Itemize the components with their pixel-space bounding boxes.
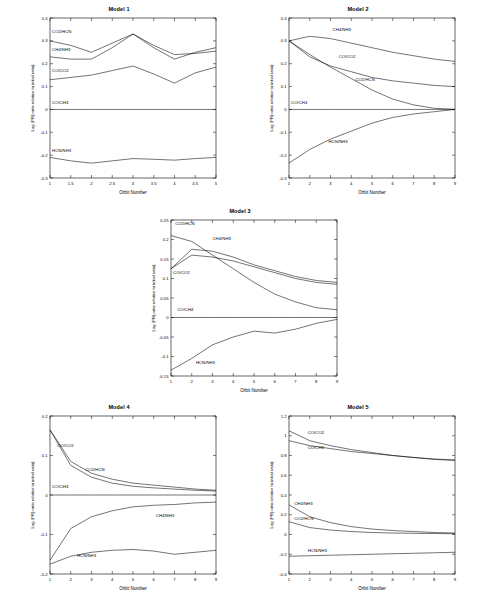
svg-text:5: 5 xyxy=(253,379,256,384)
svg-text:0.4: 0.4 xyxy=(281,493,287,498)
svg-text:0.1: 0.1 xyxy=(42,84,48,89)
svg-text:-0.1: -0.1 xyxy=(40,532,48,537)
svg-text:0.15: 0.15 xyxy=(160,257,169,262)
svg-text:1: 1 xyxy=(288,577,291,582)
series-ch4-nh3 xyxy=(50,502,216,560)
svg-text:6: 6 xyxy=(392,577,395,582)
svg-text:Orbit Number: Orbit Number xyxy=(119,190,147,195)
series-label-co-co2: CO/CO2 xyxy=(339,54,356,59)
series-ch4-nh3 xyxy=(171,249,337,282)
series-label-co-ch4: CO/CH4 xyxy=(308,445,325,450)
svg-text:9: 9 xyxy=(215,577,218,582)
series-co-ch4 xyxy=(289,441,455,460)
svg-text:6: 6 xyxy=(392,181,395,186)
svg-text:7: 7 xyxy=(294,379,297,384)
series-label-hcn-nh3: HCN/NH3 xyxy=(328,139,348,144)
panel-model-3: Model 3 123456789-0.15-0.1-0.0500.050.10… xyxy=(135,208,345,400)
series-label-ch4-nh3: CH4/NH3 xyxy=(156,513,175,518)
svg-text:-0.2: -0.2 xyxy=(279,153,287,158)
svg-text:1: 1 xyxy=(49,577,52,582)
svg-text:Orbit Number: Orbit Number xyxy=(358,586,386,591)
svg-text:0.4: 0.4 xyxy=(281,16,287,21)
svg-text:0.05: 0.05 xyxy=(160,296,169,301)
svg-text:-0.2: -0.2 xyxy=(279,552,287,557)
series-label-ch4-nh3: CH4/NH3 xyxy=(294,501,313,506)
plot-model-5: 123456789-0.4-0.200.20.40.60.811.2Orbit … xyxy=(253,404,463,600)
svg-text:Log (PR) ratio relative to ini: Log (PR) ratio relative to initial ratio… xyxy=(151,264,156,331)
series-label-ch4-nh3: CH4/NH3 xyxy=(52,47,71,52)
series-co2-hcn xyxy=(289,41,455,110)
svg-text:-0.3: -0.3 xyxy=(279,176,287,181)
svg-text:4: 4 xyxy=(111,577,114,582)
series-label-co-co2: CO/CO2 xyxy=(173,270,190,275)
series-hcn-nh3 xyxy=(289,109,455,163)
series-label-co-co2: CO/CO2 xyxy=(52,68,69,73)
svg-text:0: 0 xyxy=(45,493,48,498)
svg-text:4: 4 xyxy=(173,181,176,186)
svg-text:3.5: 3.5 xyxy=(151,181,157,186)
plot-model-3: 123456789-0.15-0.1-0.0500.050.10.150.20.… xyxy=(135,208,345,400)
svg-text:0.3: 0.3 xyxy=(281,38,287,43)
svg-text:9: 9 xyxy=(454,181,457,186)
panel-title-model-4: Model 4 xyxy=(14,404,224,410)
svg-text:0.25: 0.25 xyxy=(160,218,169,223)
svg-text:5: 5 xyxy=(215,181,218,186)
plot-model-4: 123456789-0.2-0.100.10.2Orbit NumberLog … xyxy=(14,404,224,600)
svg-text:7: 7 xyxy=(412,181,415,186)
svg-text:5: 5 xyxy=(371,181,374,186)
svg-text:2: 2 xyxy=(309,181,312,186)
panel-title-model-5: Model 5 xyxy=(253,404,463,410)
figure-canvas: Model 1 11.522.533.544.55-0.3-0.2-0.100.… xyxy=(0,0,485,604)
series-label-ch4-nh3: CH4/NH3 xyxy=(213,236,232,241)
series-co2-hcn xyxy=(171,236,337,310)
svg-text:-0.15: -0.15 xyxy=(159,374,169,379)
panel-title-model-1: Model 1 xyxy=(14,6,224,12)
svg-text:-0.2: -0.2 xyxy=(40,572,48,577)
svg-text:2.5: 2.5 xyxy=(109,181,115,186)
svg-text:-0.3: -0.3 xyxy=(40,176,48,181)
series-co-co2 xyxy=(50,430,216,490)
svg-text:0.4: 0.4 xyxy=(42,16,48,21)
series-label-hcn-nh3: HCN/NH3 xyxy=(52,148,72,153)
svg-text:0: 0 xyxy=(166,315,169,320)
svg-text:-0.1: -0.1 xyxy=(161,354,169,359)
series-co2-hcn xyxy=(289,522,455,534)
svg-text:1: 1 xyxy=(288,181,291,186)
svg-text:2: 2 xyxy=(191,379,194,384)
panel-model-4: Model 4 123456789-0.2-0.100.10.2Orbit Nu… xyxy=(14,404,224,600)
series-hcn-nh3 xyxy=(289,552,455,556)
svg-text:-0.1: -0.1 xyxy=(279,130,287,135)
svg-text:3: 3 xyxy=(132,181,135,186)
svg-text:3: 3 xyxy=(329,577,332,582)
svg-text:8: 8 xyxy=(315,379,318,384)
svg-text:4: 4 xyxy=(232,379,235,384)
series-co2-hcn xyxy=(50,34,216,59)
series-label-co-co2: CO/CO2 xyxy=(57,443,74,448)
svg-text:0.2: 0.2 xyxy=(281,61,287,66)
series-label-co2-hcn: CO2/HCN xyxy=(175,221,194,226)
svg-text:Log (PR) ratio relative to ini: Log (PR) ratio relative to initial ratio… xyxy=(269,64,274,131)
svg-text:0.2: 0.2 xyxy=(42,414,48,419)
svg-text:0.2: 0.2 xyxy=(42,61,48,66)
panel-model-1: Model 1 11.522.533.544.55-0.3-0.2-0.100.… xyxy=(14,6,224,206)
svg-text:-0.1: -0.1 xyxy=(40,130,48,135)
svg-text:1: 1 xyxy=(284,433,287,438)
series-label-co2-hcn: CO2/HCN xyxy=(52,29,71,34)
panel-title-model-3: Model 3 xyxy=(135,208,345,214)
svg-text:0.8: 0.8 xyxy=(281,453,287,458)
svg-text:-0.05: -0.05 xyxy=(159,335,169,340)
svg-text:2: 2 xyxy=(90,181,93,186)
series-ch4-nh3 xyxy=(289,36,455,61)
series-label-co-ch4: CO/CH4 xyxy=(291,100,308,105)
panel-title-model-2: Model 2 xyxy=(253,6,463,12)
svg-text:-0.2: -0.2 xyxy=(40,153,48,158)
svg-text:0: 0 xyxy=(284,107,287,112)
svg-text:9: 9 xyxy=(454,577,457,582)
series-hcn-nh3 xyxy=(50,550,216,565)
svg-text:0: 0 xyxy=(45,107,48,112)
svg-text:1.2: 1.2 xyxy=(281,414,287,419)
svg-text:Orbit Number: Orbit Number xyxy=(240,388,268,393)
svg-text:9: 9 xyxy=(336,379,339,384)
svg-text:8: 8 xyxy=(433,577,436,582)
series-label-co-co2: CO/CO2 xyxy=(308,430,325,435)
